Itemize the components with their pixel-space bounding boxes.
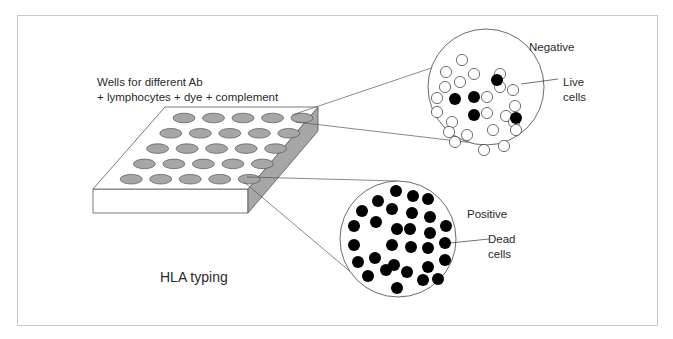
well xyxy=(209,174,231,184)
live-cell xyxy=(440,66,451,77)
dead-cell xyxy=(405,241,417,253)
live-cell xyxy=(507,84,518,95)
dead-cell xyxy=(491,74,503,86)
well xyxy=(238,174,260,184)
live-cell xyxy=(481,107,492,118)
live-cell xyxy=(461,129,472,140)
live-cell xyxy=(431,106,442,117)
well xyxy=(248,129,270,139)
live-cell xyxy=(468,68,479,79)
dead-cell xyxy=(424,227,436,239)
wells-label-line2: + lymphocytes + dye + complement xyxy=(97,90,278,105)
dead-cell xyxy=(380,264,392,276)
wells-label-line1: Wells for different Ab xyxy=(97,75,278,90)
dead-cell xyxy=(404,223,416,235)
live-cell xyxy=(431,92,442,103)
well xyxy=(179,174,201,184)
live-cell xyxy=(487,124,498,135)
live-cells-line2: cells xyxy=(563,90,586,105)
well xyxy=(173,113,195,123)
figure-title: HLA typing xyxy=(160,270,228,285)
wells-label: Wells for different Ab + lymphocytes + d… xyxy=(97,75,278,105)
dead-cell xyxy=(417,274,429,286)
dead-cell xyxy=(422,242,434,254)
dead-cell xyxy=(422,193,434,205)
dead-cells-label: Dead cells xyxy=(488,232,516,262)
well xyxy=(232,113,254,123)
well xyxy=(262,113,284,123)
well xyxy=(278,129,300,139)
well xyxy=(189,129,211,139)
dead-cell xyxy=(401,266,413,278)
dead-cell xyxy=(348,239,360,251)
live-cell xyxy=(439,81,450,92)
live-cell xyxy=(449,136,460,147)
dead-cell xyxy=(449,93,461,105)
well xyxy=(133,159,155,169)
dead-cells-line1: Dead xyxy=(488,232,516,247)
dead-cell xyxy=(439,237,451,249)
dead-cell xyxy=(422,261,434,273)
negative-label: Negative xyxy=(529,40,574,55)
well xyxy=(222,159,244,169)
dead-cell xyxy=(439,254,451,266)
well xyxy=(251,159,273,169)
live-cell xyxy=(498,140,509,151)
well xyxy=(120,174,142,184)
well xyxy=(206,144,228,154)
dead-cell xyxy=(468,91,480,103)
live-cell xyxy=(454,76,465,87)
live-cell xyxy=(446,116,457,127)
dead-cell xyxy=(510,112,522,124)
dead-cell xyxy=(391,223,403,235)
well xyxy=(147,144,169,154)
well xyxy=(163,159,185,169)
live-cell xyxy=(478,144,489,155)
dead-cell xyxy=(352,256,364,268)
dead-cell xyxy=(362,270,374,282)
dead-cell xyxy=(370,216,382,228)
live-cells-line1: Live xyxy=(563,75,586,90)
live-cell xyxy=(509,100,520,111)
well xyxy=(265,144,287,154)
plate-front-face xyxy=(93,189,248,213)
dead-cell xyxy=(468,109,480,121)
well xyxy=(150,174,172,184)
dead-cell xyxy=(386,239,398,251)
dead-cell xyxy=(440,220,452,232)
well xyxy=(203,113,225,123)
well xyxy=(176,144,198,154)
dead-cell xyxy=(391,282,403,294)
dead-cell xyxy=(348,220,360,232)
well xyxy=(291,113,313,123)
dead-cell xyxy=(390,185,402,197)
well xyxy=(192,159,214,169)
dead-cells-line2: cells xyxy=(488,247,516,262)
dead-cell xyxy=(406,207,418,219)
live-cell xyxy=(510,124,521,135)
well xyxy=(235,144,257,154)
live-cells-label: Live cells xyxy=(563,75,586,105)
well xyxy=(160,129,182,139)
dead-cell xyxy=(407,190,419,202)
positive-label: Positive xyxy=(467,207,507,222)
live-cell xyxy=(481,91,492,102)
dead-cell xyxy=(356,205,368,217)
dead-cell xyxy=(386,203,398,215)
dead-cell xyxy=(372,195,384,207)
well xyxy=(219,129,241,139)
live-cell xyxy=(443,126,454,137)
dead-cell xyxy=(424,211,436,223)
dead-cell xyxy=(432,273,444,285)
live-cell xyxy=(456,54,467,65)
dead-cell xyxy=(369,252,381,264)
